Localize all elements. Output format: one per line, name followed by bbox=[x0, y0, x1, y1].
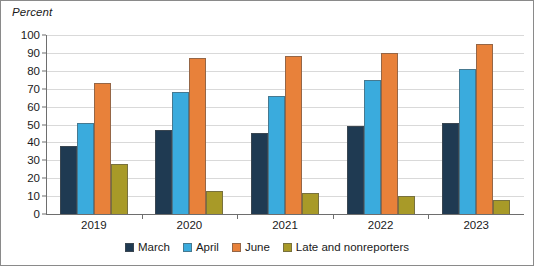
bar-group-2022 bbox=[333, 35, 429, 214]
bar-2021-march bbox=[251, 133, 268, 214]
bar-2022-june bbox=[381, 53, 398, 214]
y-tick-label-50: 50 bbox=[27, 119, 40, 131]
y-tick-label-100: 100 bbox=[21, 29, 40, 41]
legend-swatch-icon bbox=[283, 243, 292, 252]
bars-layer bbox=[46, 35, 524, 214]
legend-item-june[interactable]: June bbox=[232, 241, 270, 253]
legend-swatch-icon bbox=[232, 243, 241, 252]
y-axis-line bbox=[46, 35, 47, 215]
bar-2020-late-and-nonreporters bbox=[206, 191, 223, 214]
bar-2020-march bbox=[155, 130, 172, 214]
bar-group-2021 bbox=[237, 35, 333, 214]
bar-2019-march bbox=[60, 146, 77, 214]
x-tick-label-2019: 2019 bbox=[81, 219, 107, 231]
legend-swatch-icon bbox=[125, 243, 134, 252]
legend-label: June bbox=[245, 241, 270, 253]
y-tick-label-60: 60 bbox=[27, 101, 40, 113]
bar-2022-march bbox=[347, 126, 364, 214]
bar-2020-june bbox=[189, 58, 206, 214]
y-tick-label-80: 80 bbox=[27, 65, 40, 77]
x-tick-label-2022: 2022 bbox=[368, 219, 394, 231]
y-tick-label-10: 10 bbox=[27, 190, 40, 202]
x-tick-label-2020: 2020 bbox=[177, 219, 203, 231]
x-axis-tick-labels: 20192020202120222023 bbox=[46, 219, 524, 235]
bar-2021-june bbox=[285, 56, 302, 214]
plot-area: 0102030405060708090100 bbox=[46, 35, 524, 214]
legend-label: Late and nonreporters bbox=[296, 241, 409, 253]
bar-group-2019 bbox=[46, 35, 142, 214]
bar-2023-june bbox=[476, 44, 493, 214]
bar-2020-april bbox=[172, 92, 189, 214]
legend-label: March bbox=[138, 241, 170, 253]
y-tick-label-40: 40 bbox=[27, 136, 40, 148]
y-tick-label-90: 90 bbox=[27, 47, 40, 59]
legend-item-april[interactable]: April bbox=[183, 241, 219, 253]
bar-chart-figure: Percent 0102030405060708090100 201920202… bbox=[0, 0, 534, 266]
legend-item-march[interactable]: March bbox=[125, 241, 170, 253]
bar-group-2023 bbox=[428, 35, 524, 214]
bar-2019-june bbox=[94, 83, 111, 214]
legend-label: April bbox=[196, 241, 219, 253]
bar-2022-late-and-nonreporters bbox=[398, 196, 415, 214]
y-tick-label-0: 0 bbox=[34, 208, 40, 220]
bar-2021-april bbox=[268, 96, 285, 214]
x-tick-label-2023: 2023 bbox=[463, 219, 489, 231]
y-tick-label-20: 20 bbox=[27, 172, 40, 184]
bar-2023-april bbox=[459, 69, 476, 214]
bar-2022-april bbox=[364, 80, 381, 214]
y-tick-label-70: 70 bbox=[27, 83, 40, 95]
bar-2023-late-and-nonreporters bbox=[493, 200, 510, 214]
legend-swatch-icon bbox=[183, 243, 192, 252]
bar-group-2020 bbox=[142, 35, 238, 214]
bar-2019-april bbox=[77, 123, 94, 214]
bar-2019-late-and-nonreporters bbox=[111, 164, 128, 214]
chart-legend: MarchAprilJuneLate and nonreporters bbox=[1, 241, 533, 253]
y-axis-title: Percent bbox=[12, 6, 52, 18]
x-tick-label-2021: 2021 bbox=[272, 219, 298, 231]
bar-2023-march bbox=[442, 123, 459, 214]
bar-2021-late-and-nonreporters bbox=[302, 193, 319, 214]
legend-item-late-and-nonreporters[interactable]: Late and nonreporters bbox=[283, 241, 409, 253]
y-tick-label-30: 30 bbox=[27, 154, 40, 166]
